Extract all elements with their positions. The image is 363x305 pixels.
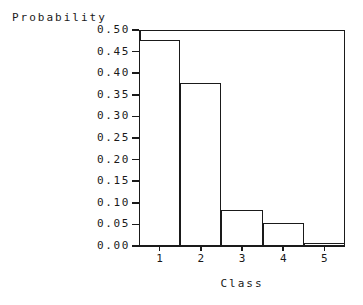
y-tick-label: 0.20	[52, 154, 130, 165]
y-tick-mark	[132, 29, 139, 31]
y-tick-mark	[132, 51, 139, 53]
x-tick-mark	[200, 246, 202, 251]
y-tick-mark	[132, 180, 139, 182]
bar	[139, 40, 180, 246]
x-tick-label: 2	[186, 252, 216, 265]
y-tick-label: 0.15	[52, 175, 130, 186]
x-tick-label: 4	[268, 252, 298, 265]
y-tick-label-text: 0.25	[52, 132, 130, 143]
y-tick-label-text: 0.00	[52, 240, 130, 251]
y-tick-label-text: 0.45	[52, 46, 130, 57]
bar	[221, 210, 262, 246]
y-tick-label-text: 0.30	[52, 110, 130, 121]
y-tick-mark	[132, 94, 139, 96]
x-tick-mark	[159, 246, 161, 251]
x-tick-label: 5	[309, 252, 339, 265]
y-tick-label: 0.35	[52, 89, 130, 100]
y-tick-label-text: 0.35	[52, 89, 130, 100]
y-tick-label-text: 0.15	[52, 175, 130, 186]
bar	[263, 223, 304, 246]
y-tick-label: 0.40	[52, 67, 130, 78]
x-tick-mark	[241, 246, 243, 251]
y-tick-label-text: 0.50	[52, 24, 130, 35]
y-tick-mark	[132, 72, 139, 74]
y-tick-mark	[132, 224, 139, 226]
y-tick-mark	[132, 137, 139, 139]
x-axis-title: Class	[139, 277, 345, 290]
bar	[180, 83, 221, 246]
y-tick-mark	[132, 116, 139, 118]
y-tick-label-text: 0.10	[52, 197, 130, 208]
y-tick-mark	[132, 202, 139, 204]
y-tick-mark	[132, 159, 139, 161]
y-tick-label: 0.30	[52, 110, 130, 121]
x-tick-label: 1	[145, 252, 175, 265]
y-tick-label: 0.00	[52, 240, 130, 251]
x-tick-mark	[282, 246, 284, 251]
y-tick-label-text: 0.40	[52, 67, 130, 78]
probability-bar-chart: Probability 0.000.050.100.150.200.250.30…	[0, 0, 363, 305]
y-tick-label: 0.45	[52, 46, 130, 57]
y-tick-label: 0.50	[52, 24, 130, 35]
y-tick-label: 0.25	[52, 132, 130, 143]
y-tick-mark	[132, 245, 139, 247]
y-tick-label-text: 0.20	[52, 154, 130, 165]
y-tick-label-text: 0.05	[52, 218, 130, 229]
x-tick-label: 3	[227, 252, 257, 265]
x-tick-mark	[324, 246, 326, 251]
y-tick-label: 0.05	[52, 218, 130, 229]
y-tick-label: 0.10	[52, 197, 130, 208]
y-axis-title: Probability	[12, 11, 107, 24]
